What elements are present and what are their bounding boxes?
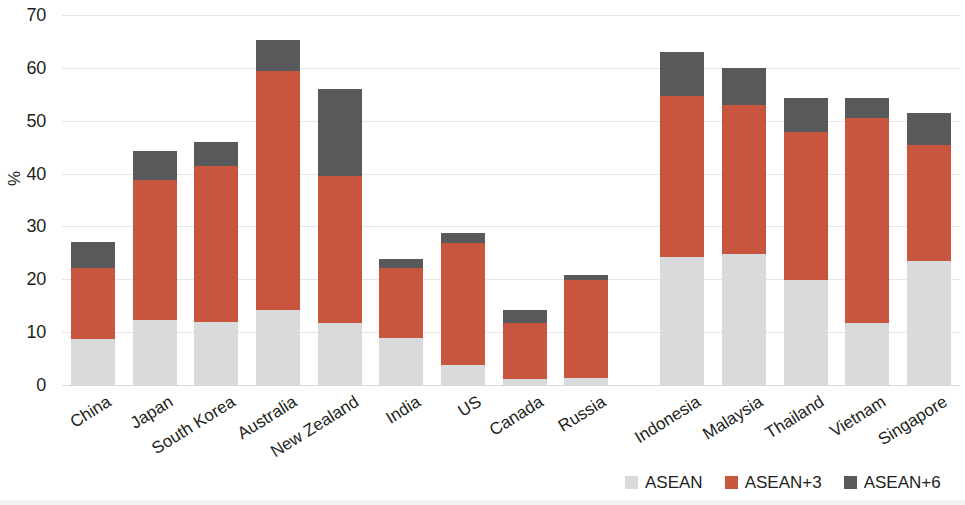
bar-segment-asean6[interactable] — [722, 68, 766, 105]
bar-stack[interactable] — [784, 15, 828, 385]
bar-segment-asean[interactable] — [256, 310, 300, 385]
bar-segment-asean[interactable] — [503, 379, 547, 385]
bar-segment-asean[interactable] — [379, 338, 423, 385]
bar-stack[interactable] — [441, 15, 485, 385]
chart-legend: ASEANASEAN+3ASEAN+6 — [625, 474, 941, 491]
bar-segment-asean6[interactable] — [784, 98, 828, 132]
y-axis-tick-label: 70 — [0, 6, 46, 24]
bar-group[interactable] — [775, 15, 837, 385]
x-axis-tick-label: Russia — [554, 392, 609, 437]
bar-stack[interactable] — [564, 15, 608, 385]
bar-segment-asean[interactable] — [907, 261, 951, 385]
x-axis-category-labels: ChinaJapanSouth KoreaAustraliaNew Zealan… — [62, 388, 960, 478]
bar-segment-asean6[interactable] — [379, 259, 423, 268]
bar-segment-asean3[interactable] — [379, 268, 423, 338]
bar-group[interactable] — [371, 15, 433, 385]
bar-stack[interactable] — [194, 15, 238, 385]
bar-segment-asean3[interactable] — [441, 243, 485, 365]
bar-group[interactable] — [62, 15, 124, 385]
plot-area — [62, 15, 960, 385]
bar-segment-asean[interactable] — [784, 280, 828, 385]
bar-segment-asean3[interactable] — [722, 105, 766, 254]
legend-label: ASEAN+6 — [864, 474, 941, 491]
y-axis-tick-label: 40 — [0, 165, 46, 183]
bar-stack[interactable] — [379, 15, 423, 385]
bar-stack[interactable] — [503, 15, 547, 385]
bar-segment-asean3[interactable] — [784, 132, 828, 280]
bar-stack[interactable] — [71, 15, 115, 385]
bar-segment-asean3[interactable] — [503, 323, 547, 379]
bar-segment-asean[interactable] — [194, 322, 238, 385]
bar-segment-asean6[interactable] — [907, 113, 951, 145]
legend-label: ASEAN — [645, 474, 703, 491]
bar-group[interactable] — [651, 15, 713, 385]
bar-stack[interactable] — [845, 15, 889, 385]
x-axis-tick-label: Indonesia — [632, 392, 705, 448]
x-axis-tick-label: India — [382, 392, 424, 429]
bar-segment-asean3[interactable] — [133, 180, 177, 320]
legend-swatch-icon — [625, 476, 638, 489]
stacked-bar-chart: % 010203040506070 ChinaJapanSouth KoreaA… — [0, 0, 965, 505]
bar-group[interactable] — [432, 15, 494, 385]
bar-stack[interactable] — [256, 15, 300, 385]
x-axis-tick-label: US — [455, 392, 486, 421]
legend-swatch-icon — [844, 476, 857, 489]
bar-stack[interactable] — [907, 15, 951, 385]
x-label-slot: Russia — [556, 388, 618, 478]
x-label-slot: US — [432, 388, 494, 478]
bar-group[interactable] — [247, 15, 309, 385]
bar-group[interactable] — [713, 15, 775, 385]
x-label-slot: Canada — [494, 388, 556, 478]
bar-segment-asean6[interactable] — [256, 40, 300, 70]
bar-stack[interactable] — [722, 15, 766, 385]
bar-stack[interactable] — [133, 15, 177, 385]
bar-segment-asean[interactable] — [722, 254, 766, 385]
x-label-slot: New Zealand — [309, 388, 371, 478]
bar-segment-asean6[interactable] — [660, 52, 704, 96]
y-axis-tick-label: 60 — [0, 59, 46, 77]
bar-segment-asean[interactable] — [133, 320, 177, 385]
bar-group[interactable] — [185, 15, 247, 385]
bar-segment-asean3[interactable] — [71, 268, 115, 339]
bar-segment-asean6[interactable] — [318, 89, 362, 176]
bar-stack[interactable] — [660, 15, 704, 385]
bar-segment-asean[interactable] — [71, 339, 115, 385]
x-label-slot: Singapore — [898, 388, 960, 478]
bar-stack[interactable] — [318, 15, 362, 385]
x-label-slot: China — [62, 388, 124, 478]
y-axis-tick-labels: 010203040506070 — [0, 15, 56, 385]
bar-group[interactable] — [556, 15, 618, 385]
bar-segment-asean3[interactable] — [194, 166, 238, 321]
y-axis-tick-label: 10 — [0, 323, 46, 341]
bar-segment-asean[interactable] — [660, 257, 704, 385]
bar-segment-asean3[interactable] — [256, 71, 300, 310]
bar-segment-asean6[interactable] — [133, 151, 177, 180]
bar-segment-asean[interactable] — [318, 323, 362, 385]
bar-group[interactable] — [309, 15, 371, 385]
bar-segment-asean3[interactable] — [564, 280, 608, 378]
legend-item[interactable]: ASEAN — [625, 474, 703, 491]
bar-segment-asean3[interactable] — [318, 176, 362, 323]
bar-series-container — [62, 15, 960, 385]
bar-group[interactable] — [124, 15, 186, 385]
legend-item[interactable]: ASEAN+6 — [844, 474, 941, 491]
legend-item[interactable]: ASEAN+3 — [725, 474, 822, 491]
bar-segment-asean[interactable] — [441, 365, 485, 385]
bar-segment-asean3[interactable] — [907, 145, 951, 261]
bar-group[interactable] — [494, 15, 556, 385]
bar-segment-asean6[interactable] — [845, 98, 889, 118]
bar-group[interactable] — [836, 15, 898, 385]
y-axis-tick-label: 50 — [0, 112, 46, 130]
bar-segment-asean6[interactable] — [503, 310, 547, 323]
bar-segment-asean[interactable] — [845, 323, 889, 385]
bar-segment-asean6[interactable] — [441, 233, 485, 243]
bar-segment-asean3[interactable] — [660, 96, 704, 257]
bar-segment-asean3[interactable] — [845, 118, 889, 323]
x-label-slot: Thailand — [775, 388, 837, 478]
bar-segment-asean[interactable] — [564, 378, 608, 385]
bar-segment-asean6[interactable] — [194, 142, 238, 166]
bar-segment-asean6[interactable] — [71, 242, 115, 268]
y-axis-tick-label: 0 — [0, 376, 46, 394]
x-axis-tick-label: Canada — [486, 392, 547, 441]
bar-group[interactable] — [898, 15, 960, 385]
